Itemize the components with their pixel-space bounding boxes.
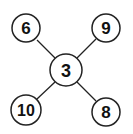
- node-label: 8: [101, 103, 110, 122]
- diagram-canvas: 6 9 3 10 8: [0, 0, 133, 134]
- node-top-left: 6: [12, 14, 40, 42]
- node-label: 3: [61, 61, 71, 81]
- node-label: 6: [21, 19, 30, 38]
- edge-center-bottom-left: [37, 82, 55, 99]
- node-label: 10: [17, 102, 35, 119]
- edge-center-top-right: [77, 39, 96, 58]
- node-bottom-right: 8: [92, 98, 120, 126]
- node-top-right: 9: [92, 14, 120, 42]
- node-label: 9: [101, 19, 110, 38]
- edge-center-bottom-right: [77, 82, 96, 101]
- node-center: 3: [50, 54, 82, 86]
- edge-center-top-left: [37, 40, 55, 58]
- node-bottom-left: 10: [11, 95, 41, 125]
